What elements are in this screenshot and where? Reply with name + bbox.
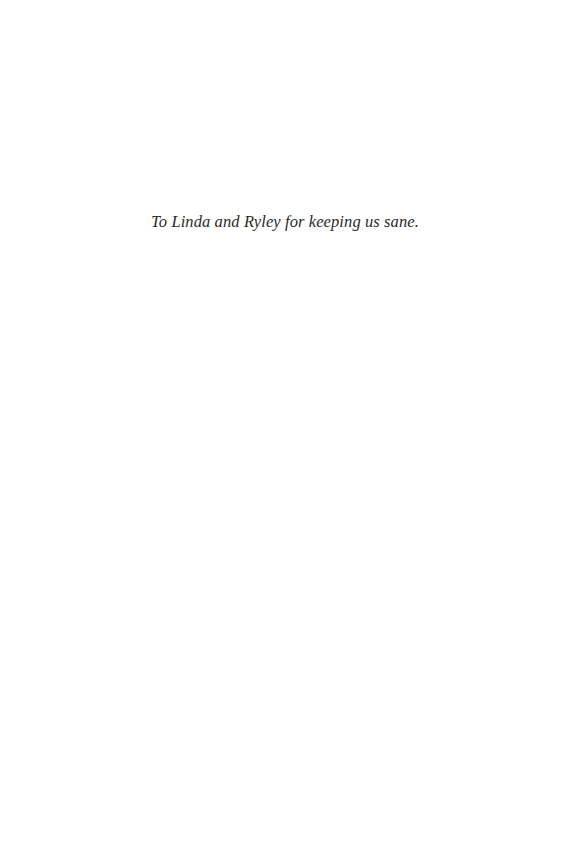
book-page: To Linda and Ryley for keeping us sane.: [0, 0, 570, 862]
dedication-text: To Linda and Ryley for keeping us sane.: [0, 212, 570, 232]
